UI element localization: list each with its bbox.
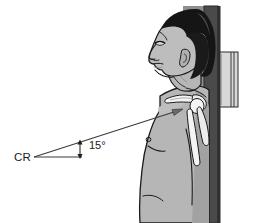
cassette [220, 52, 238, 107]
cassette-body [220, 52, 238, 107]
cr-label: CR [14, 151, 31, 163]
figure-illustration: CR 15° [0, 0, 259, 223]
angle-label: 15° [89, 139, 106, 151]
bucky-edge-stripe [218, 6, 221, 223]
radiographic-positioning-figure: CR 15° [0, 0, 259, 223]
